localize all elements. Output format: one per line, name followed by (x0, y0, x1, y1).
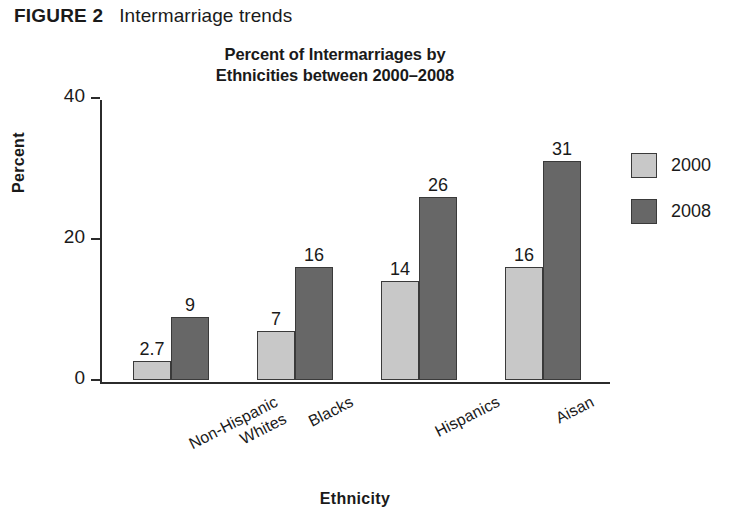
bar-2008-hispanics[interactable]: 26 (419, 197, 457, 380)
legend-label-2008: 2008 (671, 201, 711, 221)
plot-area: 02040 2.7971614261631 (100, 100, 610, 382)
y-axis-tick-label: 40 (64, 85, 85, 107)
y-axis-tick: 40 (91, 97, 100, 99)
bar-value-label: 16 (304, 245, 324, 265)
bar-2000-aisan[interactable]: 16 (505, 267, 543, 380)
bar-2008-aisan[interactable]: 31 (543, 161, 581, 380)
x-axis-label-non-hispanic-whites: Non-HispanicWhites (186, 392, 290, 470)
bar-2008-non-hispanic-whites[interactable]: 9 (171, 317, 209, 380)
bar-value-label: 31 (552, 139, 572, 159)
x-axis-label-aisan: Aisan (552, 392, 597, 427)
bar-2000-hispanics[interactable]: 14 (381, 281, 419, 380)
x-axis-label-line: Blacks (306, 393, 356, 430)
chart-legend: 20002008 (631, 142, 711, 234)
bar-value-label: 9 (185, 295, 195, 315)
x-axis-title: Ethnicity (100, 490, 610, 508)
bar-value-label: 2.7 (139, 339, 164, 359)
chart-title-line-2: Ethnicities between 2000–2008 (100, 65, 570, 86)
legend-swatch-2008 (631, 199, 657, 224)
x-axis-label-hispanics: Hispanics (432, 392, 503, 441)
y-axis-tick: 20 (91, 238, 100, 240)
legend-item-2008[interactable]: 2008 (631, 188, 711, 234)
figure-header: FIGURE 2Intermarriage trends (14, 4, 292, 28)
figure-number: FIGURE 2 (14, 5, 103, 26)
x-axis-label-line: Hispanics (432, 393, 502, 440)
figure-caption: Intermarriage trends (119, 5, 292, 26)
chart-title-line-1: Percent of Intermarriages by (100, 44, 570, 65)
legend-swatch-2000 (631, 153, 657, 178)
x-axis-label-blacks: Blacks (305, 392, 356, 431)
chart-title: Percent of Intermarriages by Ethnicities… (100, 44, 570, 86)
bar-2000-non-hispanic-whites[interactable]: 2.7 (133, 361, 171, 380)
y-axis-line (100, 100, 102, 383)
bar-value-label: 16 (514, 245, 534, 265)
y-axis-tick: 0 (91, 379, 100, 381)
y-axis-tick-label: 0 (74, 367, 85, 389)
x-axis-line (100, 382, 610, 384)
y-axis-title: Percent (10, 169, 28, 193)
x-axis-label-line: Aisan (553, 393, 597, 427)
legend-item-2000[interactable]: 2000 (631, 142, 711, 188)
legend-label-2000: 2000 (671, 155, 711, 175)
bar-value-label: 7 (271, 309, 281, 329)
bar-value-label: 14 (390, 259, 410, 279)
bar-2008-blacks[interactable]: 16 (295, 267, 333, 380)
bar-value-label: 26 (428, 175, 448, 195)
y-axis-tick-label: 20 (64, 226, 85, 248)
bar-2000-blacks[interactable]: 7 (257, 331, 295, 380)
